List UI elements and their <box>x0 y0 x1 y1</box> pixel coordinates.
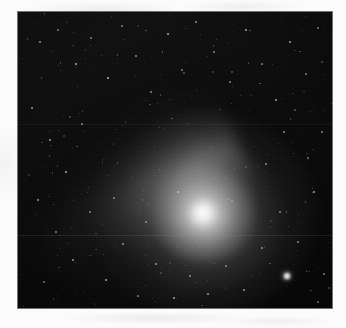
film-speckle <box>199 246 200 247</box>
film-speckle <box>60 62 61 63</box>
film-speckle <box>250 95 251 96</box>
film-speckle <box>266 186 267 187</box>
bright-field-star <box>284 273 289 278</box>
film-speckle <box>321 61 323 63</box>
field-star <box>145 221 146 222</box>
film-speckle <box>245 166 246 167</box>
film-speckle <box>142 199 144 201</box>
film-speckle <box>189 122 190 123</box>
film-speckle <box>84 131 85 132</box>
field-star <box>43 281 44 282</box>
film-speckle <box>28 174 29 175</box>
film-speckle <box>305 201 307 203</box>
field-star <box>181 69 182 70</box>
field-star <box>137 295 138 296</box>
film-speckle <box>27 38 28 39</box>
film-speckle <box>147 242 148 243</box>
film-speckle <box>185 265 187 267</box>
film-speckle <box>160 272 161 273</box>
film-speckle <box>310 111 311 112</box>
field-star <box>245 29 247 31</box>
scan-line <box>18 124 332 125</box>
field-star <box>195 21 196 22</box>
film-speckle <box>151 57 152 58</box>
film-speckle <box>169 270 170 271</box>
figure-page <box>0 0 346 328</box>
film-speckle <box>249 110 250 111</box>
field-star <box>121 25 122 26</box>
film-speckle <box>159 127 160 128</box>
film-speckle <box>72 45 73 46</box>
film-speckle <box>176 298 177 299</box>
film-speckle <box>169 99 170 100</box>
film-speckle <box>282 98 283 99</box>
film-speckle <box>267 154 268 155</box>
field-star <box>150 91 151 92</box>
field-star <box>81 123 82 124</box>
film-speckle <box>306 153 307 154</box>
film-speckle <box>177 217 178 218</box>
film-speckle <box>227 199 228 200</box>
film-speckle <box>287 65 288 66</box>
film-speckle <box>303 91 304 92</box>
film-speckle <box>75 67 77 69</box>
film-speckle <box>24 180 25 181</box>
field-star <box>289 41 291 43</box>
field-star <box>49 139 50 140</box>
field-star <box>189 275 190 276</box>
film-speckle <box>258 153 259 154</box>
field-star <box>167 33 169 35</box>
field-star <box>90 37 91 38</box>
field-star <box>265 163 266 164</box>
film-speckle <box>298 214 299 215</box>
film-speckle <box>328 287 330 289</box>
film-speckle <box>202 254 203 255</box>
film-speckle <box>81 193 82 194</box>
film-speckle <box>137 25 139 27</box>
film-speckle <box>123 39 124 40</box>
film-speckle <box>238 242 239 243</box>
film-speckle <box>111 70 112 71</box>
film-speckle <box>181 63 182 64</box>
film-speckle <box>115 245 116 246</box>
field-star <box>107 77 109 79</box>
film-speckle <box>160 74 161 75</box>
film-speckle <box>109 270 110 271</box>
field-star <box>105 279 107 281</box>
film-speckle <box>248 62 250 64</box>
film-speckle <box>178 294 179 295</box>
film-speckle <box>157 102 158 103</box>
field-star <box>39 41 40 42</box>
film-speckle <box>131 177 132 178</box>
film-speckle <box>234 168 235 169</box>
film-speckle <box>103 254 104 255</box>
film-speckle <box>206 56 207 57</box>
field-star <box>37 199 39 201</box>
film-speckle <box>90 172 91 173</box>
film-speckle <box>73 32 74 33</box>
film-speckle <box>281 236 282 237</box>
film-speckle <box>249 30 250 31</box>
film-speckle <box>49 155 51 157</box>
field-star <box>155 263 156 264</box>
field-star <box>65 171 67 173</box>
film-speckle <box>102 160 103 161</box>
film-speckle <box>252 275 253 276</box>
film-speckle <box>169 262 170 263</box>
film-speckle <box>76 293 77 294</box>
field-star <box>243 289 245 291</box>
film-speckle <box>314 104 315 105</box>
field-star <box>313 191 315 193</box>
film-speckle <box>331 103 332 105</box>
film-speckle <box>69 116 70 117</box>
field-star <box>317 27 318 28</box>
film-speckle <box>270 220 271 221</box>
film-speckle <box>57 23 58 24</box>
film-speckle <box>91 254 92 255</box>
film-speckle <box>57 58 58 59</box>
film-speckle <box>117 54 118 55</box>
film-speckle <box>176 145 177 146</box>
film-speckle <box>111 16 112 17</box>
film-speckle <box>171 118 172 119</box>
field-star <box>261 247 262 248</box>
